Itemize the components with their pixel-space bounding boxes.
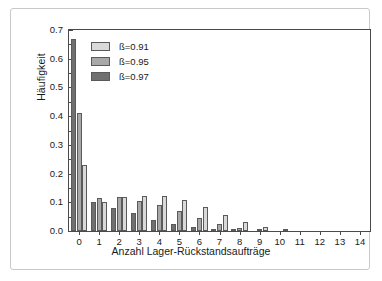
bar (171, 224, 176, 231)
bar (211, 229, 216, 231)
x-axis-tick-mark (159, 231, 160, 235)
bar (263, 227, 268, 231)
legend-label: ß=0.97 (119, 71, 149, 82)
x-axis-tick-mark (240, 231, 241, 235)
x-axis-tick-mark (280, 231, 281, 235)
y-axis-tick-mark (69, 231, 73, 232)
bar (77, 113, 82, 231)
bar (243, 222, 248, 231)
legend-swatch (91, 72, 110, 81)
y-axis-title: Häufigkeit (35, 17, 47, 137)
x-axis-tick-mark (99, 231, 100, 235)
y-axis-tick-label: 0.3 (50, 139, 63, 150)
x-axis-tick-mark (360, 231, 361, 235)
legend-label: ß=0.91 (119, 41, 149, 52)
bar (111, 208, 116, 231)
bar (117, 197, 122, 231)
x-axis-tick-mark (139, 231, 140, 235)
legend-swatch (91, 42, 110, 51)
bar (91, 202, 96, 231)
y-axis-tick-label: 0.5 (50, 81, 63, 92)
x-axis-tick-mark (340, 231, 341, 235)
bar (191, 227, 196, 231)
x-axis-tick-mark (320, 231, 321, 235)
bar (151, 220, 156, 231)
y-axis-tick-label: 0.4 (50, 110, 63, 121)
bar (97, 198, 102, 231)
bar (197, 218, 202, 231)
bar (122, 197, 127, 231)
bar (203, 207, 208, 231)
chart-legend: ß=0.91ß=0.95ß=0.97 (91, 39, 149, 84)
y-axis-tick-mark (69, 30, 73, 31)
x-axis-tick-mark (199, 231, 200, 235)
bar (131, 213, 136, 231)
bar (217, 224, 222, 231)
figure-frame: Häufigkeit 0.00.10.20.30.40.50.60.7 0123… (10, 8, 370, 270)
y-axis-tick-label: 0.2 (50, 168, 63, 179)
plot-area: 0.00.10.20.30.40.50.60.7 012345678910111… (68, 29, 371, 232)
x-axis-tick-mark (179, 231, 180, 235)
x-axis-tick-mark (79, 231, 80, 235)
legend-label: ß=0.95 (119, 56, 149, 67)
bar (162, 196, 167, 231)
legend-swatch (91, 57, 110, 66)
y-axis-tick-label: 0.0 (50, 225, 63, 236)
bar (182, 200, 187, 231)
x-axis-tick-mark (300, 231, 301, 235)
bar (157, 205, 162, 231)
bar (71, 39, 76, 231)
bar (137, 201, 142, 231)
y-axis-tick-label: 0.1 (50, 196, 63, 207)
x-axis-title: Anzahl Lager-Rückstandsaufträge (11, 245, 371, 257)
bar (257, 229, 262, 231)
y-axis-tick-label: 0.6 (50, 53, 63, 64)
bar (283, 229, 288, 231)
legend-item: ß=0.97 (91, 69, 149, 84)
legend-item: ß=0.95 (91, 54, 149, 69)
bar (237, 228, 242, 231)
bar (177, 211, 182, 231)
bar (231, 229, 236, 231)
x-axis-tick-mark (119, 231, 120, 235)
bar (223, 215, 228, 231)
y-axis-tick-label: 0.7 (50, 24, 63, 35)
legend-item: ß=0.91 (91, 39, 149, 54)
bar (102, 202, 107, 231)
x-axis-tick-mark (260, 231, 261, 235)
x-axis-tick-mark (220, 231, 221, 235)
bar (142, 196, 147, 231)
bar (82, 165, 87, 231)
